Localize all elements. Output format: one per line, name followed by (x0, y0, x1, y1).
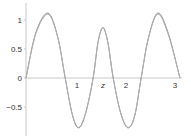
line-chart: 10.50−0.5 123 z (0, 0, 191, 139)
y-tick-label: −0.5 (6, 103, 22, 112)
x-tick-labels: 123 (75, 81, 178, 90)
y-tick-label: 0.5 (11, 45, 23, 54)
x-axis-label: z (100, 81, 105, 90)
data-series (26, 13, 180, 128)
x-tick-label: 1 (75, 81, 80, 90)
series-line-curve-a (26, 13, 180, 128)
series-line-curve-b (26, 14, 180, 127)
x-tick-label: 2 (124, 81, 129, 90)
y-tick-label: 0 (18, 74, 23, 83)
y-tick-labels: 10.50−0.5 (6, 16, 26, 112)
x-tick-label: 3 (173, 81, 178, 90)
y-tick-label: 1 (18, 16, 23, 25)
